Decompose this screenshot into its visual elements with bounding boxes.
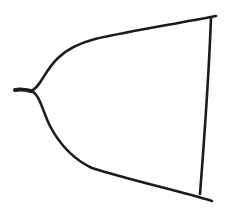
- sketch-canvas: [0, 0, 229, 214]
- upper-curve: [31, 16, 216, 91]
- stem-stroke: [15, 90, 31, 91]
- lower-curve: [31, 91, 212, 201]
- sketch-drawing: [0, 0, 229, 214]
- right-edge-line: [200, 18, 211, 194]
